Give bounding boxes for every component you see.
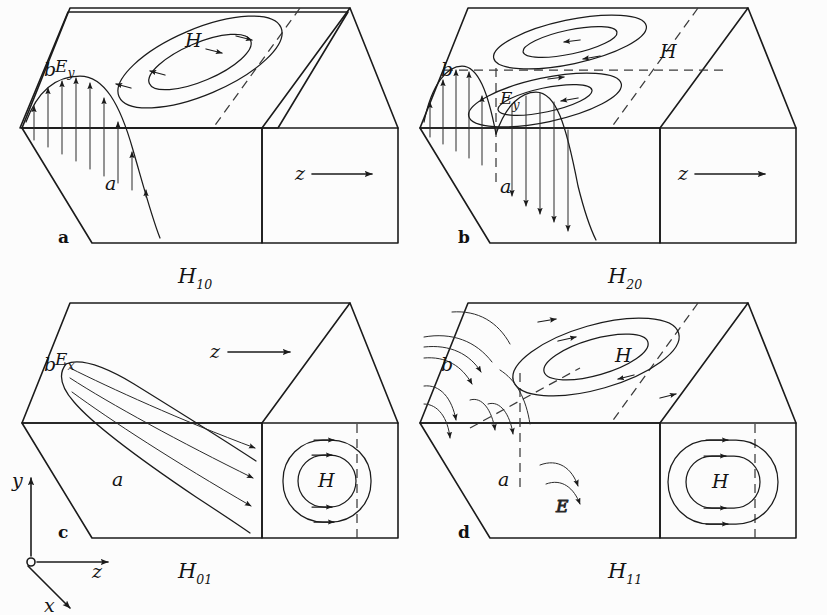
panel-b-mode-label: H20 — [607, 264, 642, 292]
panel-b-e-envelope-lobe2 — [496, 92, 596, 240]
panel-d-e-curve-11 — [500, 370, 530, 424]
axes-origin-marker — [27, 558, 35, 566]
panel-a-e-field: Ey — [26, 56, 160, 238]
panel-d-graphic: H H E b a d H1 — [420, 303, 796, 587]
panel-a-key: a — [58, 227, 69, 247]
figure-canvas: H Ey b a z — [0, 0, 827, 615]
panel-a-h-arrow-2 — [206, 49, 222, 53]
panel-c-h-field: H — [283, 440, 371, 522]
panel-b-h-loop-1-inner — [521, 20, 620, 63]
panel-d-mode-label: H11 — [607, 559, 642, 587]
panel-d-h-loop-top-inner — [539, 325, 653, 389]
panel-c-e-envelope-upper — [66, 362, 256, 461]
panel-a-e-envelope — [26, 76, 160, 238]
panel-d-h-field-top: H — [505, 303, 688, 412]
panel-c-z-label: z — [209, 340, 221, 362]
panel-d-e-curve-7 — [488, 403, 513, 434]
panel-b-h-label: H — [659, 40, 677, 62]
panel-a-b-label: b — [44, 58, 56, 80]
panel-c-z-arrow-group: z — [209, 340, 290, 362]
panel-b-graphic: H Ey b a z — [420, 4, 796, 292]
panel-d-e-label: E — [555, 496, 569, 516]
panel-c-right-edge — [350, 303, 398, 423]
panel-d-key: d — [458, 522, 470, 542]
panel-a-a-label: a — [105, 172, 116, 194]
panel-c-e-label: Ex — [54, 349, 74, 373]
panel-a-z-arrow-group: z — [294, 162, 372, 184]
panel-d-h-top-arrow-2 — [558, 337, 576, 341]
panel-a-z-label: z — [294, 162, 306, 184]
panel-b-h-arrow-1 — [564, 40, 580, 42]
panel-c-h-label: H — [317, 469, 335, 491]
panel-c-e-field: Ex — [54, 349, 256, 533]
panel-d-h-field-front: H — [668, 440, 778, 524]
panel-a-h-loop-outer — [106, 0, 294, 127]
axis-z-label: z — [91, 560, 103, 582]
panel-b-right-edge — [748, 8, 796, 128]
panel-b-h-arrow-4 — [561, 98, 578, 101]
panel-d-h-label-front: H — [711, 470, 729, 492]
waveguide-mode-figure: H Ey b a z — [0, 0, 827, 615]
panel-d-a-label: a — [498, 468, 509, 490]
panel-c-b-label: b — [44, 353, 56, 375]
panel-a-mode-label: H10 — [177, 264, 212, 292]
panel-d-right-edge — [748, 303, 796, 423]
panel-d-dashed-oblique — [470, 368, 580, 428]
panel-d-left-front-face — [420, 423, 660, 538]
panel-b-z-label: z — [677, 162, 689, 184]
panel-a-h-field: H — [106, 0, 294, 127]
panel-c-e-lines — [70, 368, 255, 506]
panel-c-graphic: Ex H b a z c H01 — [22, 303, 398, 587]
panel-d-e-curve-5 — [424, 404, 450, 438]
panel-d-top-face — [420, 303, 748, 423]
panel-a-e-label: Ey — [54, 56, 75, 80]
panel-c-key: c — [58, 522, 68, 542]
coordinate-axes: y z x — [11, 469, 108, 615]
panel-b-z-arrow-group: z — [677, 162, 765, 184]
panel-d-b-label: b — [441, 353, 453, 375]
panel-d-h-loop-top-outer — [505, 303, 688, 412]
panel-b-b-label: b — [441, 58, 453, 80]
panel-c-mode-label: H01 — [177, 559, 212, 587]
panel-d-h-top-arrow-1 — [538, 319, 556, 322]
panel-a-front-face — [262, 128, 398, 243]
panel-b-dashed-cut — [611, 8, 698, 128]
panel-b-front-face — [660, 128, 796, 243]
panel-b-a-label: a — [500, 175, 511, 197]
panel-b-h-arrow-3 — [548, 77, 564, 79]
panel-a-left-front-face — [22, 128, 262, 243]
axis-x-label: x — [44, 594, 55, 615]
panel-b-h-loop-1-outer — [489, 4, 651, 79]
panel-d-h-label-top: H — [614, 344, 632, 366]
panel-c-a-label: a — [112, 468, 123, 490]
panel-b-key: b — [458, 227, 470, 247]
panel-a-h-label: H — [184, 29, 202, 51]
panel-b-e-envelope-lobe1 — [424, 66, 496, 134]
panel-a-right-edge — [350, 8, 398, 128]
panel-d-h-top-arrow-4 — [660, 394, 676, 398]
axis-y-label: y — [11, 469, 23, 491]
panel-b-e-label: Ey — [499, 88, 520, 112]
panel-b-e-field: Ey — [424, 66, 596, 240]
panel-a-graphic: H Ey b a z — [22, 0, 398, 292]
